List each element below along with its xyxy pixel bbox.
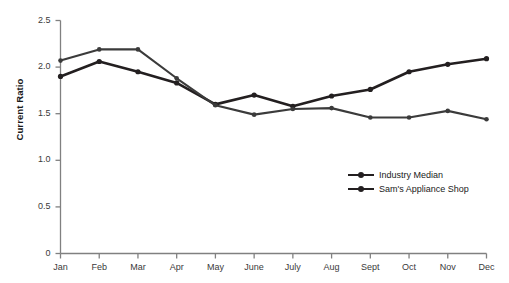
data-point-marker: [484, 56, 489, 61]
data-point-marker: [213, 103, 218, 108]
plot-area: [0, 0, 509, 283]
data-point-marker: [135, 69, 140, 74]
axis-lines: [61, 21, 487, 254]
x-axis-ticks: [61, 254, 487, 259]
data-series: [58, 56, 489, 109]
data-point-marker: [252, 92, 257, 97]
data-point-marker: [445, 109, 450, 114]
data-point-marker: [406, 69, 411, 74]
data-point-marker: [97, 47, 102, 52]
data-series: [58, 47, 489, 122]
data-point-marker: [291, 107, 296, 112]
legend-item-sams-appliance-shop: Sam's Appliance Shop: [348, 182, 469, 196]
data-point-marker: [329, 93, 334, 98]
data-point-marker: [368, 115, 373, 120]
chart-legend: Industry Median Sam's Appliance Shop: [348, 168, 469, 196]
series-layer: [58, 47, 489, 122]
legend-item-industry-median: Industry Median: [348, 168, 469, 182]
data-point-marker: [174, 76, 179, 81]
data-point-marker: [58, 74, 63, 79]
legend-label: Industry Median: [379, 170, 443, 181]
current-ratio-line-chart: Current Ratio 00.51.01.52.02.5 JanFebMar…: [0, 0, 509, 283]
data-point-marker: [329, 106, 334, 111]
data-point-marker: [484, 117, 489, 122]
data-point-marker: [445, 62, 450, 67]
data-point-marker: [368, 87, 373, 92]
legend-line-marker-icon: [348, 171, 374, 180]
data-point-marker: [58, 58, 63, 63]
data-point-marker: [407, 115, 412, 120]
data-point-marker: [136, 47, 141, 52]
data-point-marker: [97, 59, 102, 64]
legend-label: Sam's Appliance Shop: [379, 184, 469, 195]
y-axis-ticks: [56, 21, 61, 254]
data-point-marker: [252, 112, 257, 117]
legend-line-marker-icon: [348, 185, 374, 194]
data-point-marker: [174, 80, 179, 85]
